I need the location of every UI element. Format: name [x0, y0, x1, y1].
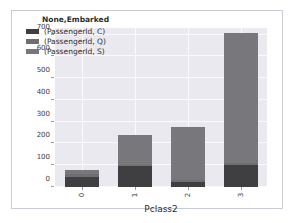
- legend-swatch-icon: [26, 29, 39, 34]
- chart-legend: None,Embarked (PassengerId, C)(Passenger…: [26, 15, 146, 56]
- bar-segment: [65, 170, 99, 174]
- y-tick-mark: [51, 121, 54, 122]
- legend-title: None,Embarked: [42, 15, 146, 24]
- legend-entry-label: (PassengerId, S): [44, 47, 105, 56]
- x-tick-label: 0: [78, 188, 86, 202]
- legend-entry[interactable]: (PassengerId, S): [26, 46, 146, 56]
- bar-segment: [65, 177, 99, 187]
- bar-0[interactable]: [65, 170, 99, 187]
- legend-swatch-icon: [26, 49, 39, 54]
- legend-swatch-icon: [26, 39, 39, 44]
- bar-3[interactable]: [224, 33, 258, 187]
- y-tick-mark: [51, 142, 54, 143]
- bar-segment: [171, 180, 205, 181]
- bar-segment: [224, 33, 258, 163]
- legend-entries: (PassengerId, C)(PassengerId, Q)(Passeng…: [26, 26, 146, 56]
- y-tick-mark: [51, 77, 54, 78]
- bar-2[interactable]: [171, 127, 205, 187]
- y-tick-mark: [51, 186, 54, 187]
- y-tick-label: 100: [37, 153, 50, 161]
- bar-segment: [65, 174, 99, 177]
- legend-entry-label: (PassengerId, Q): [44, 37, 106, 46]
- y-tick-label: 300: [37, 110, 50, 118]
- legend-entry[interactable]: (PassengerId, C): [26, 26, 146, 36]
- legend-entry[interactable]: (PassengerId, Q): [26, 36, 146, 46]
- bar-1[interactable]: [118, 135, 152, 187]
- bar-segment: [118, 166, 152, 187]
- figure-canvas: 0100200300400500600700 0123 Pclass2 None…: [0, 0, 297, 223]
- legend-entry-label: (PassengerId, C): [44, 27, 105, 36]
- y-tick-mark: [51, 164, 54, 165]
- chart-frame: 0100200300400500600700 0123 Pclass2 None…: [11, 10, 283, 209]
- bar-segment: [224, 165, 258, 187]
- x-tick-label: 2: [184, 188, 192, 202]
- y-tick-label: 200: [37, 131, 50, 139]
- x-axis-label: Pclass2: [55, 204, 267, 214]
- y-tick-mark: [51, 99, 54, 100]
- bar-segment: [118, 135, 152, 165]
- y-tick-label: 400: [37, 88, 50, 96]
- bar-segment: [171, 127, 205, 180]
- x-tick-label: 1: [131, 188, 139, 202]
- y-tick-label: 0: [46, 175, 50, 183]
- x-tick-label: 3: [237, 188, 245, 202]
- bar-segment: [224, 163, 258, 165]
- bar-segment: [118, 165, 152, 166]
- y-tick-label: 500: [37, 66, 50, 74]
